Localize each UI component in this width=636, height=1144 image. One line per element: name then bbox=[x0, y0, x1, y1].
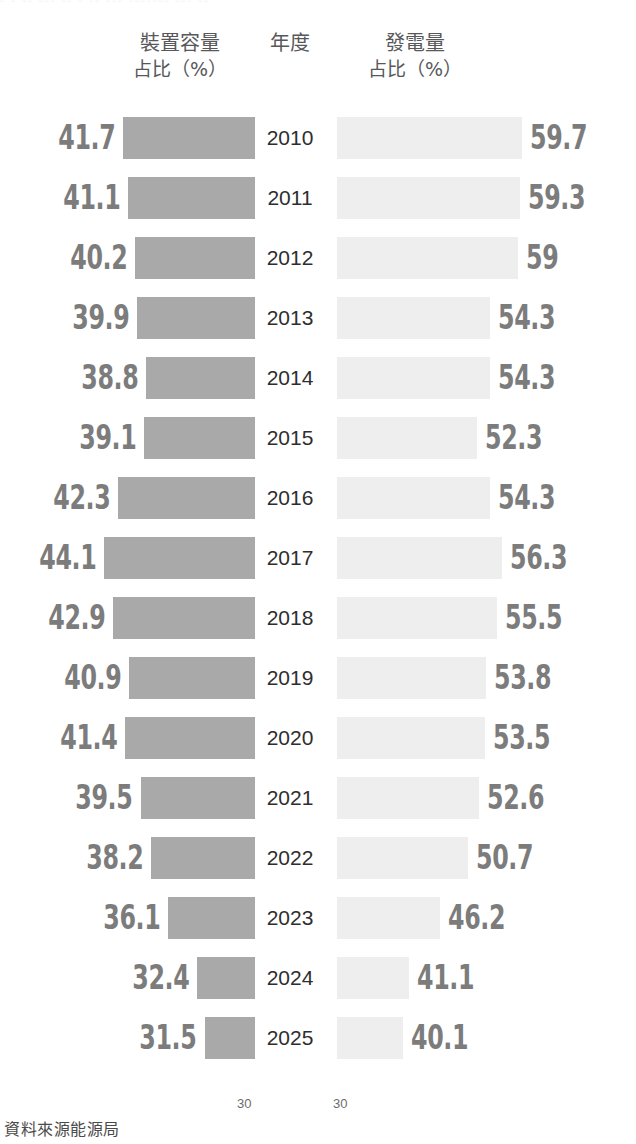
right-value-label: 54.3 bbox=[498, 358, 555, 398]
right-value-label: 40.1 bbox=[411, 1018, 468, 1058]
header-year: 年度 bbox=[247, 30, 333, 56]
year-label: 2023 bbox=[247, 900, 333, 936]
year-label: 2020 bbox=[247, 720, 333, 756]
header-right-line1: 發電量 bbox=[385, 31, 445, 55]
year-label: 2018 bbox=[247, 600, 333, 636]
left-value-label: 41.4 bbox=[60, 718, 117, 758]
chart-row: 41.7201059.7 bbox=[0, 112, 636, 172]
chart-row: 31.5202540.1 bbox=[0, 1012, 636, 1072]
left-value-label: 36.1 bbox=[103, 898, 160, 938]
header-left-capacity: 裝置容量 占比（%） bbox=[105, 30, 255, 82]
left-value-label: 38.8 bbox=[81, 358, 138, 398]
year-label: 2022 bbox=[247, 840, 333, 876]
right-bar bbox=[337, 837, 468, 879]
left-bar bbox=[129, 657, 255, 699]
chart-row: 39.9201354.3 bbox=[0, 292, 636, 352]
right-value-label: 56.3 bbox=[510, 538, 567, 578]
chart-row: 39.5202152.6 bbox=[0, 772, 636, 832]
right-bar bbox=[337, 777, 479, 819]
header-year-label: 年度 bbox=[270, 31, 310, 55]
right-value-label: 59.3 bbox=[528, 178, 585, 218]
right-value-label: 54.3 bbox=[498, 298, 555, 338]
year-label: 2013 bbox=[247, 300, 333, 336]
year-label: 2010 bbox=[247, 120, 333, 156]
right-axis-tick: 30 bbox=[333, 1096, 347, 1111]
right-value-label: 53.8 bbox=[494, 658, 551, 698]
right-bar bbox=[337, 957, 409, 999]
chart-row: 44.1201756.3 bbox=[0, 532, 636, 592]
left-value-label: 41.7 bbox=[58, 118, 115, 158]
right-bar bbox=[337, 897, 440, 939]
right-value-label: 46.2 bbox=[448, 898, 505, 938]
top-cropped-text: ▫ ▫ ▫▫ ▫▫▫ ▫▫ ▫ ▫▫ ▫▫▫ ▫▫▫▫▫▫▫ ▫▫▫ ▫▫ bbox=[0, 0, 636, 4]
left-bar bbox=[141, 777, 255, 819]
header-right-generation: 發電量 占比（%） bbox=[335, 30, 495, 82]
left-bar bbox=[128, 177, 255, 219]
right-bar bbox=[337, 657, 486, 699]
right-value-label: 54.3 bbox=[498, 478, 555, 518]
left-bar bbox=[123, 117, 255, 159]
right-bar bbox=[337, 177, 520, 219]
source-note: 資料來源能源局 bbox=[4, 1116, 120, 1140]
year-label: 2017 bbox=[247, 540, 333, 576]
right-bar bbox=[337, 357, 490, 399]
left-bar bbox=[104, 537, 255, 579]
left-value-label: 39.9 bbox=[72, 298, 129, 338]
year-label: 2025 bbox=[247, 1020, 333, 1056]
chart-row: 40.2201259 bbox=[0, 232, 636, 292]
left-value-label: 41.1 bbox=[63, 178, 120, 218]
left-bar bbox=[113, 597, 255, 639]
right-value-label: 50.7 bbox=[476, 838, 533, 878]
year-label: 2012 bbox=[247, 240, 333, 276]
header-right-line2: 占比（%） bbox=[335, 56, 495, 82]
right-bar bbox=[337, 297, 490, 339]
header-left-line2: 占比（%） bbox=[105, 56, 255, 82]
left-value-label: 39.1 bbox=[79, 418, 136, 458]
right-value-label: 52.3 bbox=[485, 418, 542, 458]
chart-row: 42.9201855.5 bbox=[0, 592, 636, 652]
year-label: 2011 bbox=[247, 180, 333, 216]
year-label: 2015 bbox=[247, 420, 333, 456]
right-bar bbox=[337, 717, 485, 759]
left-axis-tick: 30 bbox=[237, 1096, 251, 1111]
chart-row: 32.4202441.1 bbox=[0, 952, 636, 1012]
left-bar bbox=[168, 897, 255, 939]
left-value-label: 39.5 bbox=[76, 778, 133, 818]
chart-rows: 41.7201059.741.1201159.340.220125939.920… bbox=[0, 112, 636, 1072]
left-value-label: 40.9 bbox=[64, 658, 121, 698]
right-bar bbox=[337, 117, 522, 159]
year-label: 2016 bbox=[247, 480, 333, 516]
left-value-label: 42.3 bbox=[53, 478, 110, 518]
left-value-label: 31.5 bbox=[140, 1018, 197, 1058]
left-value-label: 44.1 bbox=[39, 538, 96, 578]
left-bar bbox=[125, 717, 255, 759]
left-bar bbox=[146, 357, 255, 399]
left-bar bbox=[137, 297, 255, 339]
right-bar bbox=[337, 477, 490, 519]
year-label: 2019 bbox=[247, 660, 333, 696]
year-label: 2024 bbox=[247, 960, 333, 996]
left-bar bbox=[151, 837, 255, 879]
year-label: 2014 bbox=[247, 360, 333, 396]
right-value-label: 53.5 bbox=[493, 718, 550, 758]
left-value-label: 42.9 bbox=[48, 598, 105, 638]
chart-row: 42.3201654.3 bbox=[0, 472, 636, 532]
left-value-label: 40.2 bbox=[70, 238, 127, 278]
left-value-label: 32.4 bbox=[132, 958, 189, 998]
right-value-label: 41.1 bbox=[417, 958, 474, 998]
chart-row: 36.1202346.2 bbox=[0, 892, 636, 952]
bidirectional-bar-chart: ▫ ▫ ▫▫ ▫▫▫ ▫▫ ▫ ▫▫ ▫▫▫ ▫▫▫▫▫▫▫ ▫▫▫ ▫▫ 裝置… bbox=[0, 0, 636, 1144]
left-bar bbox=[144, 417, 255, 459]
right-bar bbox=[337, 597, 497, 639]
right-bar bbox=[337, 537, 502, 579]
chart-row: 38.2202250.7 bbox=[0, 832, 636, 892]
header-left-line1: 裝置容量 bbox=[140, 31, 220, 55]
chart-row: 41.1201159.3 bbox=[0, 172, 636, 232]
right-bar bbox=[337, 237, 518, 279]
year-label: 2021 bbox=[247, 780, 333, 816]
left-bar bbox=[135, 237, 255, 279]
chart-row: 38.8201454.3 bbox=[0, 352, 636, 412]
chart-row: 41.4202053.5 bbox=[0, 712, 636, 772]
left-bar bbox=[118, 477, 255, 519]
right-value-label: 59.7 bbox=[530, 118, 587, 158]
